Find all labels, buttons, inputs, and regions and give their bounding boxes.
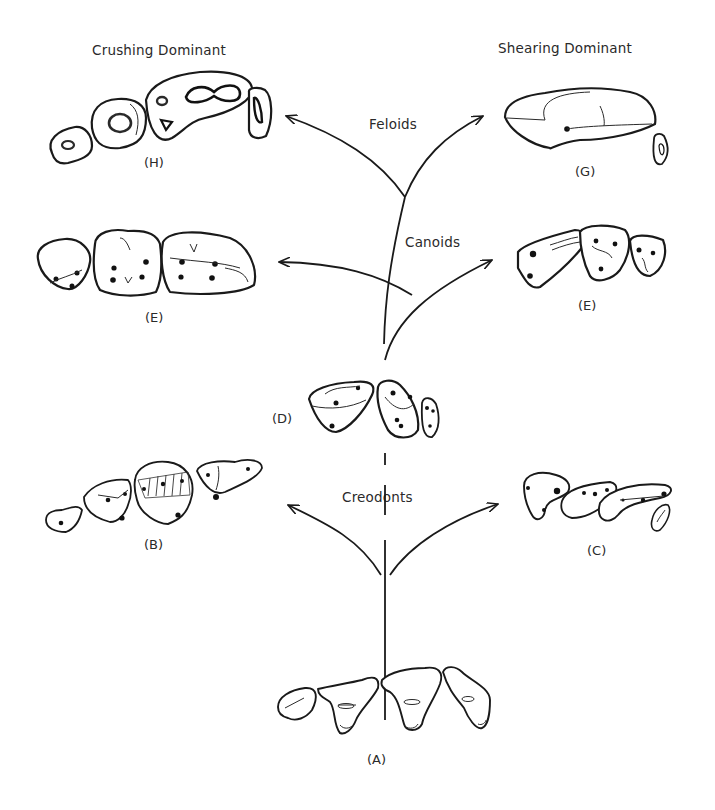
arrow-creodont-to-c <box>390 504 498 575</box>
arrow-canoid-to-e <box>385 260 492 360</box>
tooth-row-f <box>38 230 255 295</box>
evolution-diagram <box>0 0 715 810</box>
tooth-row-b <box>46 460 262 532</box>
arrow-feloid-to-h <box>286 116 405 197</box>
tooth-row-d <box>309 381 439 438</box>
tooth-row-g <box>505 88 668 164</box>
tooth-row-h <box>50 72 271 164</box>
tooth-row-a <box>278 667 490 733</box>
arrow-creodont-to-b <box>288 505 381 575</box>
tooth-row-c <box>524 473 671 531</box>
tooth-row-e <box>518 226 665 288</box>
arrow-feloid-to-g <box>405 116 483 197</box>
trunk-carnivoran <box>384 197 405 344</box>
arrow-canoid-to-f <box>279 262 412 295</box>
